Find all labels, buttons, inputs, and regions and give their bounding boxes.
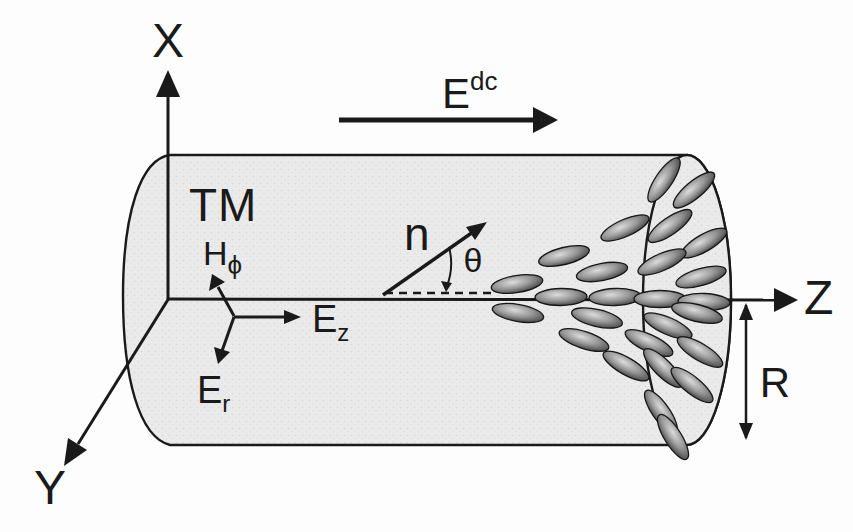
figure-canvas: X Y Z TM Edc n θ Hϕ Ez Er R (0, 0, 853, 532)
dc-field-label-base: E (442, 70, 470, 117)
dc-field-label: Edc (442, 66, 497, 117)
radius-bottom-arrowhead (739, 423, 753, 440)
waveguide-diagram: X Y Z TM Edc n θ Hϕ Ez Er R (0, 0, 853, 532)
director-label: n (404, 208, 430, 260)
radius-annotation (739, 303, 753, 440)
x-axis-label: X (152, 14, 184, 67)
tilt-angle-label: θ (464, 241, 483, 279)
z-axis-label: Z (804, 271, 833, 324)
mode-label: TM (189, 179, 257, 231)
y-axis-label: Y (34, 461, 66, 514)
radius-top-arrowhead (739, 303, 753, 320)
radius-label: R (760, 359, 790, 406)
x-axis-arrowhead (156, 70, 180, 97)
e-r-label-sub: r (222, 390, 230, 417)
e-r-label-base: E (197, 369, 222, 411)
y-axis-arrowhead (64, 438, 87, 466)
lc-molecule (535, 288, 587, 306)
z-axis-arrowhead (774, 288, 798, 312)
h-phi-label-base: H (203, 234, 228, 272)
e-z-label-sub: z (337, 319, 349, 346)
dc-field-label-sup: dc (470, 66, 497, 96)
h-phi-label-sub: ϕ (228, 250, 243, 280)
dc-field-arrowhead (533, 107, 558, 133)
e-z-label-base: E (312, 298, 337, 340)
